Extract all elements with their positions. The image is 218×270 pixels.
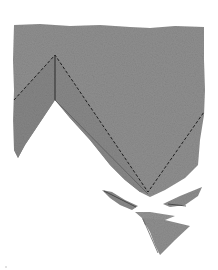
broken-shards — [102, 187, 202, 255]
shard-bottom-large — [142, 218, 190, 255]
torn-paper-illustration — [0, 0, 218, 270]
paper-speck — [5, 266, 7, 268]
main-paper-sheet — [13, 24, 205, 197]
illustration-canvas — [0, 0, 218, 270]
